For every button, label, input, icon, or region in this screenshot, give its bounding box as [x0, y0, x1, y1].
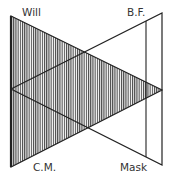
diagram: Will B.F. C.M. Mask [0, 0, 174, 177]
hatched-triangle [11, 16, 162, 167]
label-mask: Mask [120, 161, 148, 173]
label-cm: C.M. [33, 161, 56, 173]
label-will: Will [22, 6, 41, 18]
label-bf: B.F. [127, 6, 145, 18]
